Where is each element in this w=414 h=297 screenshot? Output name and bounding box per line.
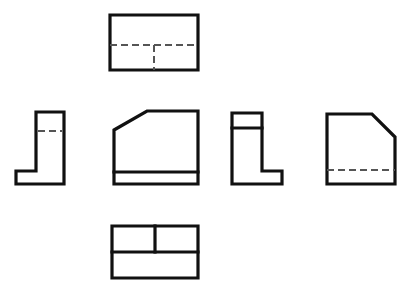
view-left-side-view[interactable]	[16, 112, 64, 184]
auxiliary-side-view-outline	[232, 113, 282, 184]
view-bottom-view[interactable]	[112, 226, 198, 278]
right-view-outline	[327, 114, 395, 184]
orthographic-views-canvas	[0, 0, 414, 297]
view-right-view[interactable]	[327, 114, 395, 184]
drawing-sheet	[0, 0, 414, 297]
view-auxiliary-side-view[interactable]	[232, 113, 282, 184]
view-top-view[interactable]	[110, 15, 198, 70]
left-side-view-outline	[16, 112, 64, 184]
view-front-view[interactable]	[114, 111, 198, 184]
